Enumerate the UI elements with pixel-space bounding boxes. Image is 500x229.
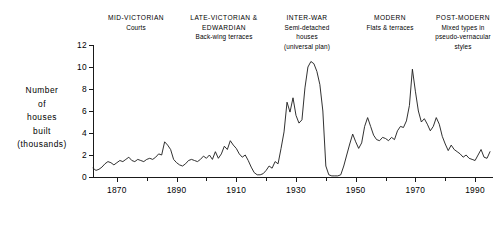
x-tick-mark-1990	[475, 178, 476, 182]
x-tick-mark-1930	[296, 178, 297, 182]
x-tick-mark-1950	[356, 178, 357, 182]
data-series-line	[93, 45, 493, 178]
period-era-label: INTER-WAR	[262, 13, 352, 23]
x-tick-minor-1960	[386, 178, 387, 181]
y-tick-label: 6	[82, 106, 87, 116]
x-tick-label: 1950	[346, 185, 366, 195]
x-tick-label: 1970	[405, 185, 425, 195]
x-tick-mark-1870	[117, 178, 118, 182]
y-tick-label: 10	[77, 62, 87, 72]
x-tick-mark-1910	[236, 178, 237, 182]
x-tick-minor-1980	[445, 178, 446, 181]
y-axis-title-line: (thousands)	[4, 138, 80, 152]
y-tick-label: 8	[82, 84, 87, 94]
period-desc-line: Mixed types in	[424, 23, 500, 33]
period-desc-line: Flats & terraces	[344, 23, 436, 33]
period-era-label: MODERN	[344, 13, 436, 23]
x-tick-label: 1930	[286, 185, 306, 195]
x-tick-label: 1910	[226, 185, 246, 195]
plot-area: 024681012 1870189019101930195019701990	[93, 45, 493, 177]
period-desc-line: houses	[262, 32, 352, 42]
x-tick-minor-1920	[266, 178, 267, 181]
x-tick-minor-1900	[206, 178, 207, 181]
x-tick-label: 1890	[167, 185, 187, 195]
period-desc-line: pseudo-vernacular	[424, 32, 500, 42]
period-era-label: POST-MODERN	[424, 13, 500, 23]
x-tick-mark-1970	[415, 178, 416, 182]
y-axis-title: Number of houses built (thousands)	[4, 84, 80, 152]
y-axis-title-line: houses	[4, 111, 80, 125]
housing-completions-chart: MID-VICTORIAN Courts LATE-VICTORIAN & ED…	[0, 0, 500, 229]
x-tick-minor-1940	[326, 178, 327, 181]
y-axis-title-line: built	[4, 125, 80, 139]
x-tick-mark-1890	[177, 178, 178, 182]
y-tick-label: 2	[82, 150, 87, 160]
period-annotation-modern: MODERN Flats & terraces	[344, 13, 436, 32]
x-tick-minor-1880	[147, 178, 148, 181]
y-tick-label: 0	[82, 172, 87, 182]
y-axis-title-line: of	[4, 98, 80, 112]
y-axis-title-line: Number	[4, 84, 80, 98]
x-tick-label: 1990	[465, 185, 485, 195]
period-desc-line: Semi-detached	[262, 23, 352, 33]
y-tick-label: 12	[77, 40, 87, 50]
y-tick-label: 4	[82, 128, 87, 138]
x-tick-label: 1870	[107, 185, 127, 195]
